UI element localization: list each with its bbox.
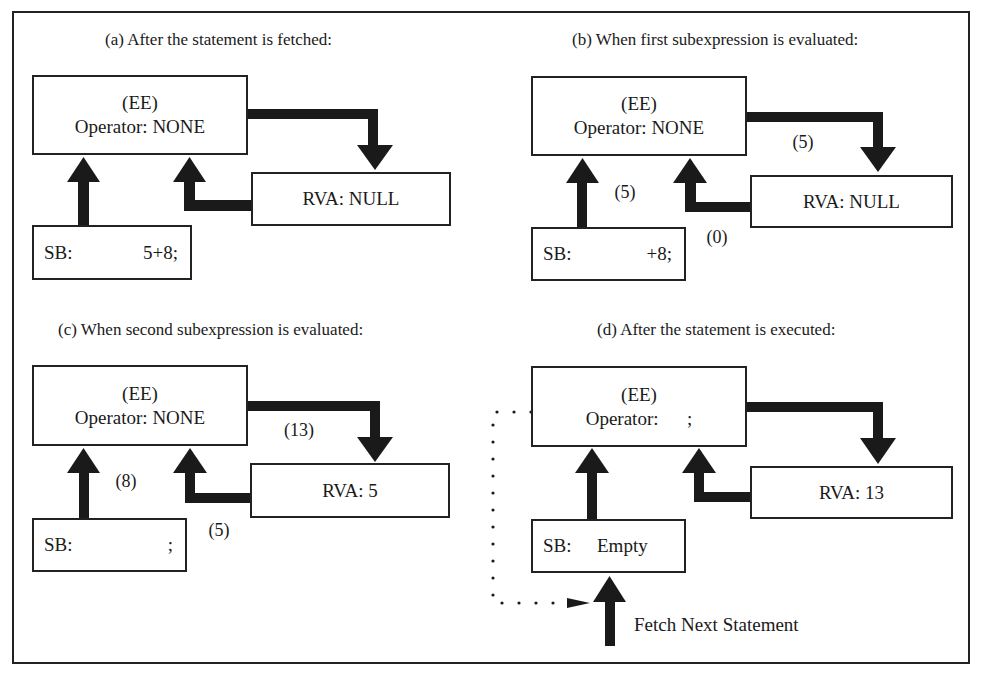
panel-c-rva-value: RVA: 5: [322, 479, 378, 503]
panel-d-sb-value: Empty: [591, 534, 684, 558]
panel-c-sb-value: ;: [92, 533, 185, 557]
panel-b-ee-box: (EE) Operator: NONE: [531, 76, 747, 156]
panel-b-sb-box: SB: +8;: [531, 227, 686, 281]
panel-d-rva-box: RVA: 13: [750, 466, 953, 519]
panel-b-label-rva-to-ee: (0): [707, 227, 728, 247]
panel-c-title: (c) When second subexpression is evaluat…: [58, 320, 363, 340]
panel-c-ee-box: (EE) Operator: NONE: [32, 365, 248, 446]
panel-c-operator: Operator: NONE: [34, 406, 246, 430]
panel-b-label-ee-to-rva: (5): [793, 132, 814, 152]
panel-a-ee-box: (EE) Operator: NONE: [32, 75, 248, 155]
panel-b-sb-label: SB:: [543, 242, 591, 266]
panel-d-sb-box: SB: Empty: [531, 519, 686, 573]
panel-c-label-ee-to-rva: (13): [284, 420, 314, 440]
panel-b-rva-value: RVA: NULL: [803, 190, 900, 214]
panel-c-ee-label: (EE): [34, 382, 246, 406]
panel-d-title: (d) After the statement is executed:: [597, 320, 835, 340]
panel-a-operator: Operator: NONE: [34, 115, 246, 139]
panel-c-rva-box: RVA: 5: [250, 463, 450, 518]
panel-a-rva-box: RVA: NULL: [251, 172, 451, 226]
panel-d-rva-value: RVA: 13: [819, 481, 884, 505]
panel-b-title: (b) When first subexpression is evaluate…: [572, 30, 858, 50]
panel-a-sb-value: 5+8;: [92, 241, 190, 265]
panel-a-sb-box: SB: 5+8;: [32, 225, 192, 280]
panel-d-ee-label: (EE): [533, 383, 745, 407]
panel-d-sb-label: SB:: [543, 534, 591, 558]
panel-b-sb-value: +8;: [591, 242, 684, 266]
panel-d-fetch-next-statement-label: Fetch Next Statement: [634, 614, 799, 636]
panel-b-rva-box: RVA: NULL: [750, 175, 953, 228]
panel-a-rva-value: RVA: NULL: [303, 187, 400, 211]
panel-d-operator: Operator: ;: [533, 407, 745, 431]
panel-a-ee-label: (EE): [34, 91, 246, 115]
panel-b-ee-label: (EE): [533, 92, 745, 116]
panel-c-sb-box: SB: ;: [32, 518, 187, 572]
panel-c-label-sb-to-ee: (8): [116, 471, 137, 491]
panel-c-sb-label: SB:: [44, 533, 92, 557]
panel-a-title: (a) After the statement is fetched:: [105, 30, 332, 50]
panel-d-ee-box: (EE) Operator: ;: [531, 366, 747, 447]
panel-b-operator: Operator: NONE: [533, 116, 745, 140]
panel-a-sb-label: SB:: [44, 241, 92, 265]
panel-b-label-sb-to-ee: (5): [615, 182, 636, 202]
panel-c-label-rva-to-ee: (5): [209, 520, 230, 540]
